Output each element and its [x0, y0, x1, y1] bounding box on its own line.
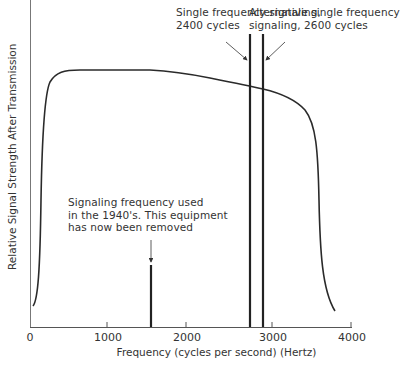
x-axis-ticks [107, 322, 351, 327]
x-axis-label: Frequency (cycles per second) (Hertz) [0, 346, 393, 358]
annotation-1940: Signaling frequency used in the 1940's. … [68, 196, 228, 234]
annotation-2600-line2: signaling, 2600 cycles [249, 19, 400, 32]
annotation-2600: Alternative single frequency signaling, … [249, 6, 400, 31]
annotation-1940-line1: Signaling frequency used [68, 196, 228, 209]
x-tick-3000: 3000 [259, 331, 287, 344]
annotation-1940-line2: in the 1940's. This equipment [68, 209, 228, 222]
arrow-2600 [266, 42, 285, 60]
arrow-2400 [226, 42, 247, 60]
response-curve [33, 70, 335, 311]
x-tick-2000: 2000 [173, 331, 201, 344]
x-tick-1000: 1000 [94, 331, 122, 344]
x-tick-0: 0 [27, 331, 34, 344]
annotation-2600-line1: Alternative single frequency [249, 6, 400, 19]
annotation-1940-line3: has now been removed [68, 221, 228, 234]
x-tick-4000: 4000 [338, 331, 366, 344]
y-axis-label: Relative Signal Strength After Transmiss… [6, 44, 18, 270]
